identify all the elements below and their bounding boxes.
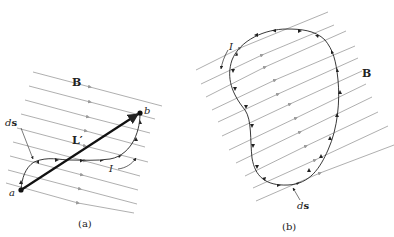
- ds-label: ds: [297, 200, 309, 211]
- caption-a: (a): [78, 218, 92, 229]
- segment-label: L′: [72, 134, 83, 147]
- point-a-label: a: [9, 187, 15, 198]
- field-lines-a: [6, 72, 162, 213]
- ds-label: ds: [5, 117, 17, 128]
- point-b-label: b: [144, 105, 150, 116]
- panel-b: B I ds (b): [196, 12, 394, 232]
- field-label-b: B: [362, 67, 371, 80]
- displacement-vector-l-prime: [21, 114, 138, 190]
- panel-a: B L′ a b I ds (a): [5, 72, 162, 229]
- caption-b: (b): [282, 221, 296, 232]
- point-a: [18, 187, 23, 192]
- field-lines-b: [196, 12, 394, 201]
- figure: B L′ a b I ds (a): [0, 0, 394, 237]
- field-label-b: B: [72, 76, 81, 89]
- current-label: I: [228, 41, 234, 52]
- point-b: [137, 110, 142, 115]
